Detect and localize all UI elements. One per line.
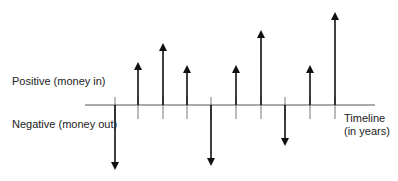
arrow-up-icon: [159, 43, 167, 105]
cash-flow-arrows: [111, 12, 339, 170]
positive-label: Positive (money in): [12, 75, 106, 88]
arrow-down-icon: [281, 105, 289, 146]
timeline-label: Timeline (in years): [344, 112, 390, 138]
timeline-ticks: [115, 97, 335, 119]
negative-label: Negative (money out): [12, 118, 117, 131]
arrow-up-icon: [134, 62, 142, 105]
arrow-up-icon: [257, 30, 265, 105]
timeline-label-line2: (in years): [344, 125, 390, 138]
arrow-up-icon: [306, 65, 314, 105]
arrow-down-icon: [207, 105, 215, 166]
cash-flow-diagram: [0, 0, 398, 181]
arrow-down-icon: [111, 105, 119, 170]
arrow-up-icon: [232, 65, 240, 105]
arrow-up-icon: [183, 65, 191, 105]
arrow-up-icon: [331, 12, 339, 105]
timeline-label-line1: Timeline: [344, 112, 390, 125]
